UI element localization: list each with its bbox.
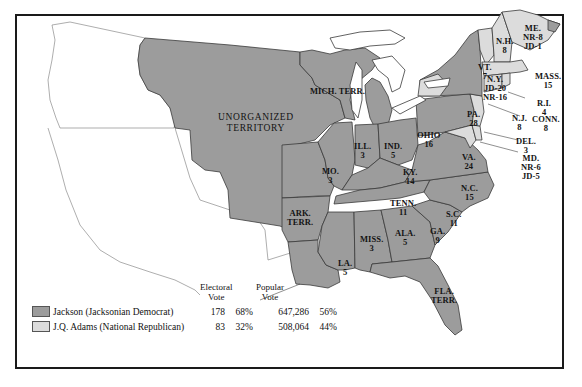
legend-electoral-pct: 68% bbox=[225, 307, 253, 317]
label-conn: CONN. 8 bbox=[532, 115, 560, 133]
label-ala: ALA. 5 bbox=[395, 229, 415, 247]
label-sc: S.C. 11 bbox=[446, 210, 462, 228]
label-md: MD. NR-6 JD-5 bbox=[521, 154, 541, 181]
lake-superior bbox=[330, 30, 405, 50]
legend-candidate-name: J.Q. Adams (National Republican) bbox=[53, 322, 203, 332]
label-nj: N.J. 8 bbox=[512, 114, 527, 132]
legend-row-jackson: Jackson (Jacksonian Democrat) 178 68% 64… bbox=[32, 305, 337, 318]
label-mo: MO. 3 bbox=[322, 167, 339, 185]
label-miss: MISS. 3 bbox=[360, 235, 383, 253]
legend-popular-pct: 56% bbox=[309, 307, 337, 317]
label-ohio: OHIO 16 bbox=[417, 131, 441, 149]
legend-electoral-vote: 83 bbox=[203, 322, 225, 332]
label-va: VA. 24 bbox=[462, 153, 476, 171]
label-ny: N.Y. JD-20 NR-16 bbox=[483, 75, 507, 102]
legend-popular-pct: 44% bbox=[309, 322, 337, 332]
label-fla-terr: FLA. TERR. bbox=[431, 287, 457, 305]
label-tenn: TENN. 11 bbox=[390, 199, 416, 217]
label-me: ME. NR-8 JD-1 bbox=[523, 24, 543, 51]
legend-electoral-vote: 178 bbox=[203, 307, 225, 317]
swatch-adams bbox=[32, 321, 50, 332]
legend-electoral-pct: 32% bbox=[225, 322, 253, 332]
legend-candidate-name: Jackson (Jacksonian Democrat) bbox=[53, 307, 203, 317]
legend-popular-vote: 647,286 bbox=[253, 307, 309, 317]
label-mich-terr: MICH. TERR. bbox=[310, 87, 365, 96]
label-nc: N.C. 15 bbox=[461, 184, 478, 202]
label-nh: N.H. 8 bbox=[496, 37, 513, 55]
label-ark-terr: ARK. TERR. bbox=[287, 209, 313, 227]
swatch-jackson bbox=[32, 306, 50, 317]
label-ga: GA. 9 bbox=[430, 227, 445, 245]
label-mass: MASS. 15 bbox=[535, 72, 561, 90]
legend-popular-header: Popular Vote bbox=[256, 282, 284, 302]
label-la: LA. 5 bbox=[338, 259, 352, 277]
legend-popular-vote: 508,064 bbox=[253, 322, 309, 332]
legend-row-adams: J.Q. Adams (National Republican) 83 32% … bbox=[32, 320, 337, 333]
region-me-jackson bbox=[548, 20, 560, 32]
label-ind: IND. 5 bbox=[384, 142, 402, 160]
label-ky: KY. 14 bbox=[403, 168, 417, 186]
label-ill: ILL. 3 bbox=[354, 142, 371, 160]
label-unorganized-territory: UNORGANIZED TERRITORY bbox=[218, 112, 294, 134]
label-pa: PA. 28 bbox=[467, 110, 480, 128]
legend-electoral-header: Electoral Vote bbox=[200, 282, 232, 302]
